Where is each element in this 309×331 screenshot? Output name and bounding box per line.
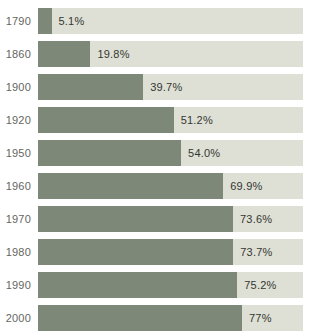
bar-row: 1960 69.9% (0, 173, 309, 199)
bar-track: 73.6% (38, 206, 303, 232)
year-label: 1980 (0, 239, 31, 265)
bar-track: 75.2% (38, 272, 303, 298)
bar-row: 1860 19.8% (0, 41, 309, 67)
bar-track: 77% (38, 305, 303, 331)
value-label: 73.7% (240, 246, 272, 258)
bar-fill (38, 74, 143, 100)
bar-fill (38, 41, 90, 67)
bar-row: 1790 5.1% (0, 8, 309, 34)
bar-row: 1950 54.0% (0, 140, 309, 166)
bar-row: 2000 77% (0, 305, 309, 331)
bar-fill (38, 107, 174, 133)
bar-fill (38, 173, 223, 199)
bar-row: 1980 73.7% (0, 239, 309, 265)
bar-row: 1920 51.2% (0, 107, 309, 133)
year-label: 1970 (0, 206, 31, 232)
year-label: 1860 (0, 41, 31, 67)
bar-fill (38, 206, 233, 232)
year-label: 1990 (0, 272, 31, 298)
bar-track: 69.9% (38, 173, 303, 199)
value-label: 54.0% (188, 147, 220, 159)
year-label: 1790 (0, 8, 31, 34)
bar-track: 39.7% (38, 74, 303, 100)
value-label: 73.6% (240, 213, 272, 225)
bar-fill (38, 140, 181, 166)
bar-row: 1900 39.7% (0, 74, 309, 100)
bar-track: 19.8% (38, 41, 303, 67)
year-label: 1950 (0, 140, 31, 166)
value-label: 51.2% (181, 114, 213, 126)
value-label: 69.9% (230, 180, 262, 192)
value-label: 19.8% (97, 48, 129, 60)
year-label: 1960 (0, 173, 31, 199)
bar-track: 51.2% (38, 107, 303, 133)
value-label: 39.7% (150, 81, 182, 93)
bar-track: 5.1% (38, 8, 303, 34)
value-label: 75.2% (244, 279, 276, 291)
bar-fill (38, 305, 242, 331)
value-label: 77% (249, 312, 272, 324)
bar-fill (38, 272, 237, 298)
urbanization-bar-chart: 1790 5.1% 1860 19.8% 1900 39.7% 1920 51.… (0, 0, 309, 331)
bar-track: 54.0% (38, 140, 303, 166)
bar-row: 1970 73.6% (0, 206, 309, 232)
bar-fill (38, 239, 233, 265)
bar-track: 73.7% (38, 239, 303, 265)
bar-fill (38, 8, 52, 34)
year-label: 1900 (0, 74, 31, 100)
value-label: 5.1% (59, 15, 85, 27)
year-label: 1920 (0, 107, 31, 133)
bar-row: 1990 75.2% (0, 272, 309, 298)
year-label: 2000 (0, 305, 31, 331)
